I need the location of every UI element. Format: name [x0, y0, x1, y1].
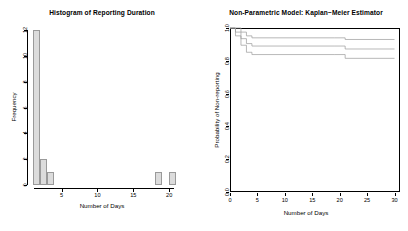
histogram-panel: Histogram of Reporting Duration 5101520 …: [0, 0, 204, 231]
kaplan-meier-step-curve: [230, 28, 395, 49]
y-tick-label: 1.0: [224, 24, 230, 32]
histogram-bar: [33, 30, 40, 185]
x-tick-label: 5: [60, 192, 63, 198]
x-tick-mark: [285, 193, 286, 196]
x-tick-label: 0: [228, 197, 231, 203]
y-tick-label: 10: [22, 53, 28, 59]
kaplan-meier-step-curve: [230, 28, 395, 39]
kaplan-meier-x-axis-title: Number of Days: [204, 209, 408, 216]
kaplan-meier-panel: Non-Parametric Model: Kaplan−Meier Estim…: [204, 0, 408, 231]
y-tick-label: 0.0: [224, 188, 230, 196]
x-tick-label: 10: [94, 192, 100, 198]
histogram-bar: [40, 159, 47, 185]
y-tick-label: 4: [22, 132, 28, 135]
y-tick-label: 2: [22, 158, 28, 161]
x-tick-label: 20: [166, 192, 172, 198]
histogram-bar: [169, 172, 176, 185]
histogram-x-axis: [34, 188, 174, 189]
x-tick-mark: [257, 193, 258, 196]
y-tick-label: 0.8: [224, 57, 230, 65]
x-tick-label: 15: [309, 197, 315, 203]
histogram-bar: [155, 172, 162, 185]
y-tick-label: 12: [22, 27, 28, 33]
kaplan-meier-curves: [230, 28, 400, 192]
x-tick-mark: [395, 193, 396, 196]
histogram-title: Histogram of Reporting Duration: [0, 9, 204, 16]
x-tick-mark: [340, 193, 341, 196]
kaplan-meier-y-axis-title: Probability of Non-reporting: [213, 72, 220, 147]
y-tick-label: 8: [22, 80, 28, 83]
y-tick-label: 0.6: [224, 90, 230, 98]
x-tick-label: 10: [282, 197, 288, 203]
x-tick-mark: [230, 193, 231, 196]
y-tick-label: 0.2: [224, 155, 230, 163]
figure-canvas: Histogram of Reporting Duration 5101520 …: [0, 0, 408, 231]
x-tick-mark: [367, 193, 368, 196]
y-tick-label: 6: [22, 106, 28, 109]
x-tick-label: 25: [364, 197, 370, 203]
kaplan-meier-step-curve: [230, 28, 395, 58]
histogram-bar: [47, 172, 54, 185]
y-tick-label: 0: [22, 183, 28, 186]
histogram-plot-area: [30, 30, 180, 185]
x-tick-label: 30: [391, 197, 397, 203]
x-tick-mark: [312, 193, 313, 196]
histogram-y-axis-title: Frequency: [10, 92, 17, 121]
x-tick-label: 15: [130, 192, 136, 198]
kaplan-meier-title: Non-Parametric Model: Kaplan−Meier Estim…: [204, 9, 408, 16]
histogram-x-axis-title: Number of Days: [0, 202, 204, 209]
x-tick-label: 20: [337, 197, 343, 203]
x-tick-label: 5: [256, 197, 259, 203]
y-tick-label: 0.4: [224, 123, 230, 131]
